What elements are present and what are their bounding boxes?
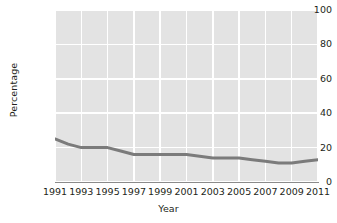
y-tick-label-20: 20 (285, 143, 337, 153)
y-tick-label-100: 100 (285, 5, 337, 15)
y-tick-label-60: 60 (285, 74, 337, 84)
y-tick-label-40: 40 (285, 108, 337, 118)
plot-area (55, 10, 318, 182)
data-series-line (55, 10, 318, 182)
x-tick-label-2011: 2011 (298, 186, 337, 197)
x-axis-title: Year (0, 203, 337, 214)
y-axis-title: Percentage (9, 45, 19, 135)
y-tick-label-80: 80 (285, 39, 337, 49)
x-axis-line (55, 182, 319, 183)
line-chart-figure: Percentage 020406080100 1991199319951997… (0, 0, 337, 223)
